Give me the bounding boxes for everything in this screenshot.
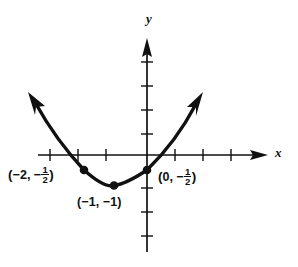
curve-left-arrowhead <box>28 92 45 115</box>
right-y-numerator: 1 <box>184 167 191 177</box>
vertex-coordinates: (−1, −1) <box>77 196 122 209</box>
left-y-numerator: 1 <box>41 165 48 175</box>
point-marker-vertex <box>110 181 119 190</box>
parabola-figure: y x ( −2, − 1 2 ) (−1, −1) ( 0, − 1 2 ) <box>0 0 298 267</box>
x-axis-label: x <box>275 146 282 159</box>
left-x-value: −2, <box>13 169 31 182</box>
right-y-fraction: 1 2 <box>184 167 191 187</box>
point-label-right: ( 0, − 1 2 ) <box>158 167 196 187</box>
y-axis-label: y <box>146 12 152 25</box>
right-y-denominator: 2 <box>184 176 191 187</box>
curve-right-arrowhead <box>187 92 203 116</box>
right-x-value: 0, <box>163 171 174 184</box>
point-label-left: ( −2, − 1 2 ) <box>8 165 54 185</box>
point-marker-left <box>80 166 89 175</box>
right-paren: ) <box>192 170 197 184</box>
right-y-sign: − <box>176 171 183 184</box>
left-y-sign: − <box>34 169 41 182</box>
graph-canvas <box>0 0 298 267</box>
point-label-vertex: (−1, −1) <box>77 196 122 209</box>
left-y-fraction: 1 2 <box>41 165 48 185</box>
point-marker-right <box>143 166 152 175</box>
left-y-denominator: 2 <box>41 174 48 185</box>
right-paren: ) <box>49 168 54 182</box>
